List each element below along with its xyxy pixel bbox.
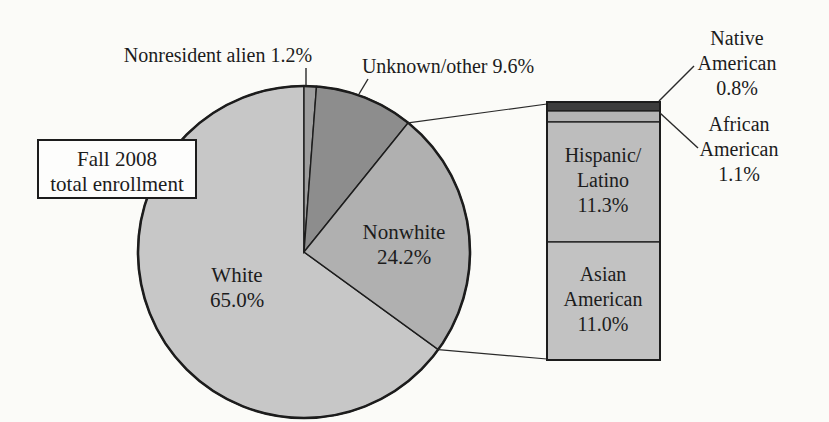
label-hispanic-latino-line2: Latino [577,169,629,191]
label-hispanic-latino-line1: Hispanic/ [565,144,642,167]
label-asian-american-line1: Asian [580,263,627,285]
label-african-american-line1: African [708,113,769,135]
label-hispanic-latino-line3: 11.3% [578,194,629,216]
label-white-line2: 65.0% [210,288,264,312]
label-unknown-other: Unknown/other 9.6% [362,55,534,77]
label-african-american-line2: American [700,138,779,160]
label-white-line1: White [211,263,262,287]
title-box-line2: total enrollment [50,172,184,196]
label-native-american-line1: Native [710,27,763,49]
label-asian-american-line3: 11.0% [578,313,629,335]
label-asian-american-line2: American [564,288,643,310]
bar-segment-african-american [547,111,660,122]
label-nonresident-alien: Nonresident alien 1.2% [124,44,312,66]
figure-canvas: Nonresident alien 1.2% Unknown/other 9.6… [0,0,829,422]
label-nonwhite-line2: 24.2% [377,245,431,269]
label-nonwhite-line1: Nonwhite [363,220,446,244]
label-african-american-line3: 1.1% [718,163,760,185]
title-box-line1: Fall 2008 [77,147,157,171]
enrollment-pie-figure: Nonresident alien 1.2% Unknown/other 9.6… [0,0,829,422]
label-native-american-line2: American [698,52,777,74]
label-native-american-line3: 0.8% [716,77,758,99]
bar-segment-native-american [547,102,660,111]
